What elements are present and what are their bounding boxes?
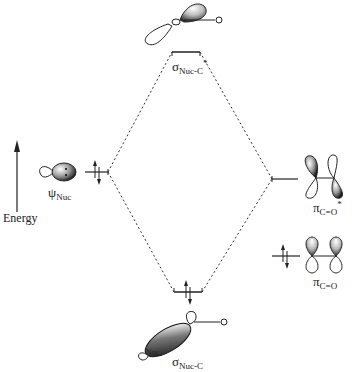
pi-orbital-icon [306, 237, 342, 273]
sigma-level [174, 280, 202, 305]
correlation-lines [108, 52, 272, 292]
pi-star-level [272, 176, 298, 182]
psi-nuc-level [85, 160, 108, 185]
psi-nuc-orbital-icon [40, 163, 76, 181]
energy-axis-label: Energy [3, 212, 37, 224]
pi-label: πC=O [313, 275, 337, 291]
pi-star-label: πC=O* [313, 200, 342, 217]
pi-star-orbital-icon [305, 155, 342, 198]
sigma-star-level [172, 52, 200, 56]
energy-axis-arrow [14, 140, 20, 212]
psi-nuc-label: ψNuc [48, 186, 71, 202]
pi-level [272, 244, 300, 269]
sigma-star-label: σNuc-C* [172, 59, 208, 76]
sigma-star-orbital-icon [145, 4, 222, 45]
nuc-bottom-label: Nuc [146, 349, 159, 357]
sigma-label: σNuc-C [172, 355, 203, 371]
